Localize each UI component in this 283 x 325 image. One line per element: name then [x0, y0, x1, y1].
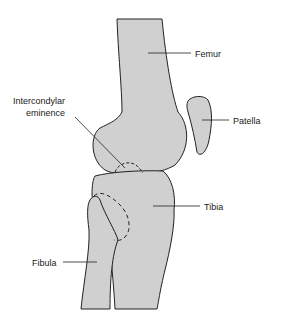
label-femur: Femur: [195, 49, 221, 59]
label-intercondylar-2: eminence: [26, 108, 65, 118]
label-intercondylar-1: Intercondylar: [13, 96, 65, 106]
knee-diagram: Femur Patella Intercondylar eminence Tib…: [0, 0, 283, 325]
label-fibula: Fibula: [32, 258, 57, 268]
label-patella: Patella: [233, 116, 261, 126]
patella-bone: [187, 96, 212, 154]
label-tibia: Tibia: [204, 202, 223, 212]
femur-bone: [93, 19, 187, 175]
